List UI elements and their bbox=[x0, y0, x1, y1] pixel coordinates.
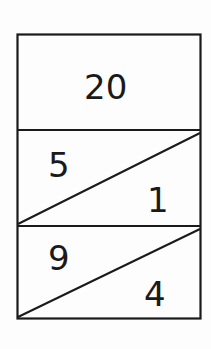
diagonal-2 bbox=[18, 229, 200, 317]
cell-2-lower-value: 4 bbox=[144, 277, 166, 311]
cell-2-upper-value: 9 bbox=[48, 241, 70, 275]
number-box-diagram: 20 5 1 9 4 bbox=[0, 0, 211, 349]
diagonal-1 bbox=[18, 133, 200, 224]
diagram-lines bbox=[0, 0, 211, 349]
cell-1-upper-value: 5 bbox=[48, 148, 70, 182]
cell-1-lower-value: 1 bbox=[147, 183, 169, 217]
top-cell-value: 20 bbox=[84, 70, 127, 104]
